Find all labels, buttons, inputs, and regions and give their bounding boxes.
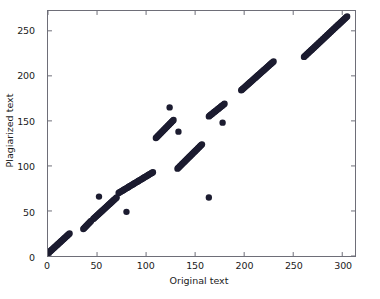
y-tick-label: 150: [17, 115, 35, 126]
scatter-plot-figure: 050100150200250300 050100150200250 Origi…: [0, 0, 380, 299]
plot-canvas: [48, 11, 355, 256]
x-tick-label: 0: [44, 260, 50, 271]
x-tick-label: 100: [137, 260, 155, 271]
x-axis-title: Original text: [0, 275, 380, 286]
outlier-point: [175, 129, 181, 135]
data-point: [270, 58, 276, 64]
outlier-point: [206, 194, 212, 200]
data-point: [221, 101, 227, 107]
data-point: [66, 230, 72, 236]
x-tick-label: 300: [334, 260, 352, 271]
x-tick-label: 150: [186, 260, 204, 271]
x-axis-title-text: Original text: [170, 275, 229, 286]
outlier-point: [123, 209, 129, 215]
x-tick-label: 250: [285, 260, 303, 271]
data-point: [199, 141, 205, 147]
y-tick-label: 0: [29, 252, 35, 263]
x-tick-label: 50: [90, 260, 102, 271]
y-tick-label: 200: [17, 70, 35, 81]
data-point: [150, 169, 156, 175]
outlier-point: [219, 120, 225, 126]
y-tick-label: 100: [17, 161, 35, 172]
match-segments: [48, 13, 350, 256]
data-point: [344, 13, 350, 19]
x-tick-label: 200: [236, 260, 254, 271]
data-point: [170, 117, 176, 123]
y-axis-title: Plagiarized text: [4, 81, 15, 181]
y-tick-label: 50: [23, 206, 35, 217]
plot-area: [47, 10, 356, 257]
outlier-point: [166, 104, 172, 110]
y-tick-label: 250: [17, 24, 35, 35]
outlier-point: [96, 193, 102, 199]
